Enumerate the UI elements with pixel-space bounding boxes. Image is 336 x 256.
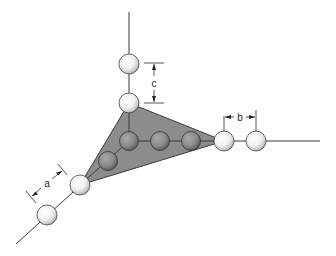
crystal-lattice-diagram: c b a bbox=[0, 0, 336, 256]
label-c: c bbox=[152, 78, 157, 89]
dimension-c: c bbox=[144, 63, 164, 103]
atom-sphere-top bbox=[119, 54, 139, 74]
atom-sphere-inner bbox=[151, 132, 170, 151]
atom-sphere-inner bbox=[182, 132, 201, 151]
atom-sphere-inner bbox=[99, 152, 118, 171]
b-arrow-right-icon bbox=[249, 115, 255, 119]
a-arrow-lower-icon bbox=[32, 192, 38, 197]
dimension-a: a bbox=[26, 164, 67, 203]
dimension-b: b bbox=[224, 110, 256, 131]
c-arrow-up-icon bbox=[152, 64, 156, 70]
b-arrow-left-icon bbox=[225, 115, 231, 119]
atom-sphere-vertex-left bbox=[70, 175, 90, 195]
c-arrow-down-icon bbox=[152, 96, 156, 102]
atom-sphere-vertex-top bbox=[119, 93, 139, 113]
label-b: b bbox=[237, 112, 243, 123]
label-a: a bbox=[44, 178, 50, 189]
atom-sphere-vertex-right bbox=[214, 131, 234, 151]
atom-sphere-origin bbox=[120, 132, 139, 151]
atom-sphere-right bbox=[246, 131, 266, 151]
atom-sphere-bottom-left bbox=[37, 205, 57, 225]
